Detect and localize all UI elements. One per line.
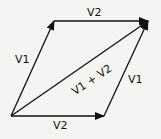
- label-v1-left: V1: [15, 54, 30, 65]
- vector-addition-diagram: V1 V2 V2 V1 V1 + V2: [0, 0, 161, 139]
- diagram-canvas: [0, 0, 161, 139]
- label-v2-bottom: V2: [53, 120, 68, 131]
- label-v2-top: V2: [87, 7, 102, 18]
- resultant-vector-arrow: [11, 21, 148, 116]
- label-v1-right: V1: [128, 74, 143, 85]
